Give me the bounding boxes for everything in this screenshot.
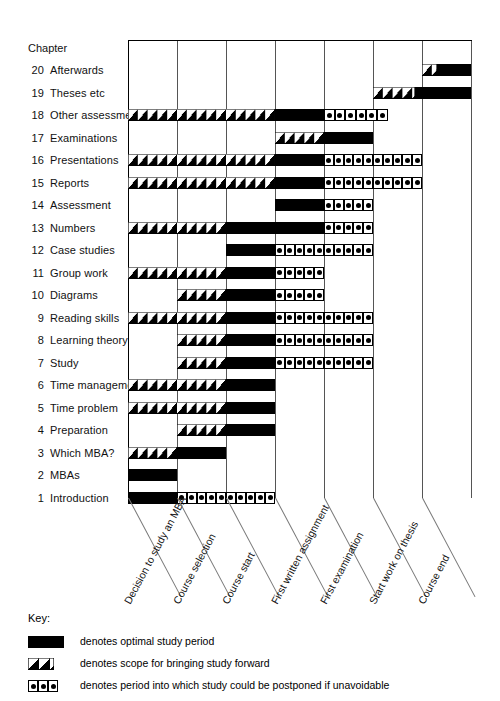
dot-marker	[199, 495, 204, 500]
chapter-number: 6	[28, 379, 44, 391]
dot-marker	[415, 180, 420, 185]
dot-marker	[326, 158, 331, 163]
dot-cell	[275, 290, 285, 300]
chapter-row-label: 17Examinations	[28, 132, 120, 144]
dot-marker	[326, 203, 331, 208]
dot-cell	[344, 313, 354, 323]
chapter-number: 3	[28, 447, 44, 459]
milestone-label: Course selection	[170, 531, 217, 606]
dot-cell	[295, 358, 305, 368]
legend-entry: denotes optimal study period	[28, 635, 478, 657]
chapter-number: 2	[28, 469, 44, 481]
milestone-label: Course start	[219, 550, 256, 606]
legend-text: denotes scope for bringing study forward	[80, 657, 270, 669]
dot-cell	[314, 335, 324, 345]
dot-cell	[353, 358, 363, 368]
dot-marker	[238, 495, 243, 500]
dot-cell	[344, 200, 354, 210]
bar-segment-solid	[226, 402, 275, 414]
chapter-row-label: 9Reading skills	[28, 312, 120, 324]
chapter-row-label: 20Afterwards	[28, 64, 120, 76]
dot-cell	[48, 681, 58, 691]
gantt-chart-figure: Chapter 20Afterwards19Theses etc18Other …	[0, 0, 500, 701]
dot-cell	[353, 200, 363, 210]
dot-marker	[415, 158, 420, 163]
dot-marker	[297, 360, 302, 365]
chapter-name: Group work	[50, 267, 108, 279]
dot-cell	[304, 358, 314, 368]
dot-cell	[295, 290, 305, 300]
chapter-row-label: 15Reports	[28, 177, 120, 189]
legend-swatch-dots	[28, 680, 58, 692]
dot-marker	[268, 495, 273, 500]
bar-segment-solid	[226, 357, 275, 369]
dot-cell	[285, 335, 295, 345]
legend-entry: denotes period into which study could be…	[28, 679, 478, 701]
dot-marker	[297, 270, 302, 275]
bar-segment-hatch	[128, 267, 226, 279]
dot-cell	[356, 110, 367, 120]
legend-text: denotes optimal study period	[80, 635, 214, 647]
dot-marker	[327, 113, 332, 118]
bar-segment-solid	[226, 379, 275, 391]
dot-marker	[287, 315, 292, 320]
dot-marker	[336, 225, 341, 230]
dot-marker	[366, 248, 371, 253]
dot-cell	[206, 493, 216, 503]
dot-cell	[275, 313, 285, 323]
dot-marker	[346, 158, 351, 163]
dot-marker	[277, 293, 282, 298]
dot-marker	[317, 248, 322, 253]
dot-cell	[402, 155, 412, 165]
dot-marker	[380, 113, 385, 118]
dot-cell	[383, 178, 393, 188]
bar-segment-dots	[275, 267, 324, 279]
chapter-name: Reading skills	[50, 312, 119, 324]
dot-cell	[344, 155, 354, 165]
dot-marker	[336, 360, 341, 365]
chapter-row-label: 14Assessment	[28, 199, 120, 211]
dot-marker	[277, 270, 282, 275]
dot-marker	[336, 248, 341, 253]
dot-marker	[385, 180, 390, 185]
bar-segment-solid	[128, 469, 177, 481]
dot-cell	[353, 335, 363, 345]
dot-marker	[366, 360, 371, 365]
dot-cell	[285, 313, 295, 323]
bar-segment-hatch	[177, 357, 226, 369]
dot-cell	[373, 178, 383, 188]
dot-marker	[287, 338, 292, 343]
dot-marker	[359, 113, 364, 118]
dot-cell	[366, 110, 377, 120]
chapter-row-label: 10Diagrams	[28, 289, 120, 301]
dot-cell	[363, 313, 373, 323]
dot-cell	[393, 178, 403, 188]
dot-cell	[324, 223, 334, 233]
dot-marker	[219, 495, 224, 500]
chapter-number: 11	[28, 267, 44, 279]
dot-marker	[356, 225, 361, 230]
dot-marker	[356, 338, 361, 343]
dot-cell	[275, 268, 285, 278]
chapter-name: Time problem	[50, 402, 118, 414]
chapter-number: 15	[28, 177, 44, 189]
dot-marker	[395, 180, 400, 185]
dot-cell	[335, 110, 346, 120]
bar-segment-dots	[324, 222, 373, 234]
chapter-row-label: 5Time problem	[28, 402, 120, 414]
dot-marker	[297, 315, 302, 320]
dot-cell	[345, 110, 356, 120]
bar-segment-dots	[324, 177, 422, 189]
chapter-number: 19	[28, 87, 44, 99]
bar-segment-hatch	[128, 379, 226, 391]
dot-marker	[356, 360, 361, 365]
dot-marker	[336, 158, 341, 163]
bar-segment-solid	[415, 87, 471, 99]
dot-marker	[297, 248, 302, 253]
dot-marker	[346, 180, 351, 185]
bar-segment-solid	[275, 199, 324, 211]
dot-cell	[304, 268, 314, 278]
dot-cell	[285, 245, 295, 255]
dot-cell	[197, 493, 207, 503]
chapter-row-label: 2MBAs	[28, 469, 120, 481]
